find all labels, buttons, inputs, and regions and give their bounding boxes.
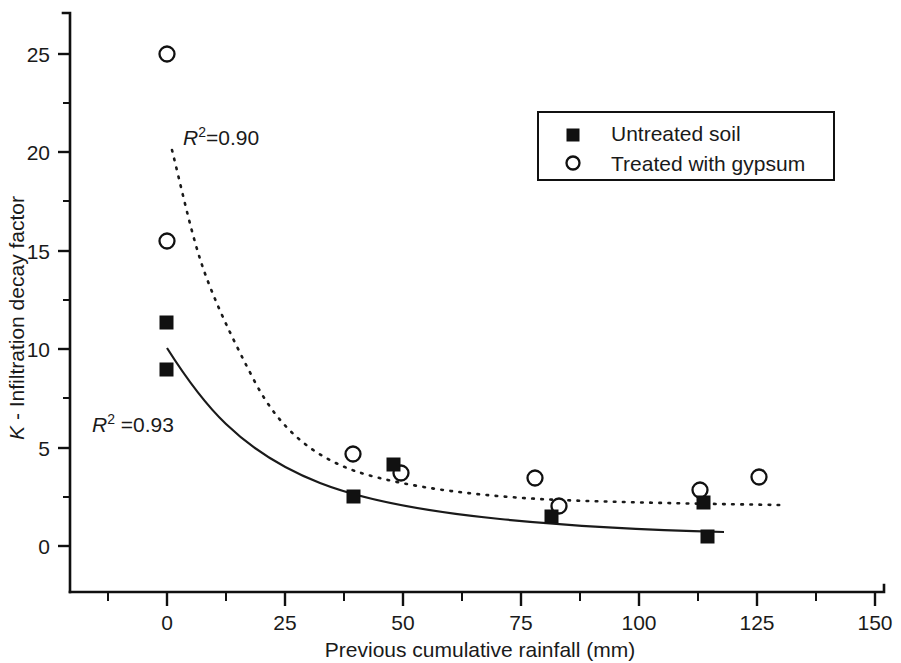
data-point-untreated: [387, 458, 400, 471]
legend-label-treated-with-gypsum: Treated with gypsum: [611, 152, 805, 175]
x-axis-ticks: [108, 592, 875, 606]
x-axis-line: [70, 585, 884, 592]
y-tick-label-15: 15: [27, 240, 50, 263]
fit-curve-untreated: [167, 348, 724, 532]
legend-open-circle-icon: [567, 157, 580, 170]
x-tick-label-0: 0: [161, 611, 173, 634]
annotation-value-treated: =0.90: [206, 126, 259, 149]
scatter-plot: 25 20 15 10 5 0 0 25: [0, 0, 901, 663]
x-tick-label-125: 125: [739, 611, 774, 634]
y-axis-tick-labels: 25 20 15 10 5 0: [27, 43, 50, 558]
data-point-untreated: [545, 510, 558, 523]
y-axis-title-symbol: K: [5, 425, 28, 440]
fit-curve-treated: [172, 150, 780, 505]
annotation-r-symbol-treated: R: [183, 126, 198, 149]
legend: Untreated soil Treated with gypsum: [538, 112, 834, 180]
data-point-untreated: [160, 316, 173, 329]
annotation-superscript-treated: 2: [198, 124, 206, 140]
data-point-treated: [693, 483, 708, 498]
x-tick-label-50: 50: [391, 611, 414, 634]
data-point-treated: [160, 47, 175, 62]
x-tick-label-75: 75: [509, 611, 532, 634]
annotation-superscript-untreated: 2: [107, 411, 115, 427]
x-tick-label-25: 25: [273, 611, 296, 634]
data-point-treated: [160, 234, 175, 249]
data-point-untreated: [701, 530, 714, 543]
y-tick-label-25: 25: [27, 43, 50, 66]
legend-filled-square-icon: [567, 129, 579, 141]
data-point-treated: [528, 471, 543, 486]
y-tick-label-10: 10: [27, 338, 50, 361]
x-tick-label-100: 100: [621, 611, 656, 634]
annotation-value-untreated: =0.93: [115, 413, 174, 436]
y-tick-label-5: 5: [38, 437, 50, 460]
y-axis-line: [63, 13, 70, 592]
y-axis-title-rest: - Infiltration decay factor: [5, 196, 28, 426]
x-axis-tick-labels: 0 25 50 75 100 125 150: [161, 611, 892, 634]
annotation-r2-untreated: R2 =0.93: [92, 411, 174, 436]
data-point-untreated: [697, 496, 710, 509]
figure-container: 25 20 15 10 5 0 0 25: [0, 0, 901, 663]
y-tick-label-20: 20: [27, 141, 50, 164]
y-axis-title: K - Infiltration decay factor: [5, 196, 28, 440]
data-point-untreated: [347, 490, 360, 503]
y-axis-ticks: [58, 54, 70, 546]
legend-label-untreated-soil: Untreated soil: [611, 122, 741, 145]
data-point-treated: [752, 470, 767, 485]
annotation-r-symbol-untreated: R: [92, 413, 107, 436]
annotation-r2-treated: R2=0.90: [183, 124, 259, 149]
x-axis-title: Previous cumulative rainfall (mm): [325, 638, 635, 661]
data-point-untreated: [160, 363, 173, 376]
data-point-treated: [346, 447, 361, 462]
x-tick-label-150: 150: [857, 611, 892, 634]
series-untreated-soil-markers: [160, 316, 714, 543]
y-tick-label-0: 0: [38, 535, 50, 558]
